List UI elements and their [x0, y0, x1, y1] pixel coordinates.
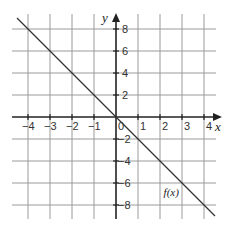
- function-graph: −4−3−2−11234 8642−2−4−6−8 0 x y f(x): [0, 0, 234, 233]
- x-tick-label: 4: [206, 120, 212, 132]
- y-tick-label: 6: [122, 45, 128, 57]
- y-tick-label: −2: [118, 133, 131, 145]
- x-tick-label: −3: [44, 120, 57, 132]
- x-tick-label: −1: [88, 120, 101, 132]
- y-axis-label: y: [100, 10, 108, 25]
- x-tick-label: 3: [184, 120, 190, 132]
- function-label: f(x): [164, 186, 180, 199]
- y-tick-label: −4: [118, 155, 131, 167]
- x-tick-label: 1: [140, 120, 146, 132]
- x-tick-label: 2: [162, 120, 168, 132]
- x-tick-label: −4: [22, 120, 35, 132]
- y-tick-label: −6: [118, 177, 131, 189]
- y-tick-label: −8: [118, 199, 131, 211]
- y-tick-label: 4: [122, 67, 128, 79]
- y-axis-arrow-icon: [112, 13, 120, 22]
- x-tick-label: −2: [66, 120, 79, 132]
- x-axis-label: x: [214, 119, 221, 134]
- y-tick-label: 8: [122, 23, 128, 35]
- y-tick-label: 2: [122, 89, 128, 101]
